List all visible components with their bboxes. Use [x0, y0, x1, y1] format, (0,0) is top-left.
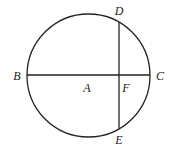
point-label-c: C [156, 70, 164, 82]
point-label-e: E [115, 134, 122, 146]
geometry-figure [0, 0, 173, 147]
point-label-d: D [115, 5, 124, 17]
point-label-f: F [122, 82, 129, 94]
point-label-b: B [13, 70, 20, 82]
point-label-a: A [83, 82, 90, 94]
